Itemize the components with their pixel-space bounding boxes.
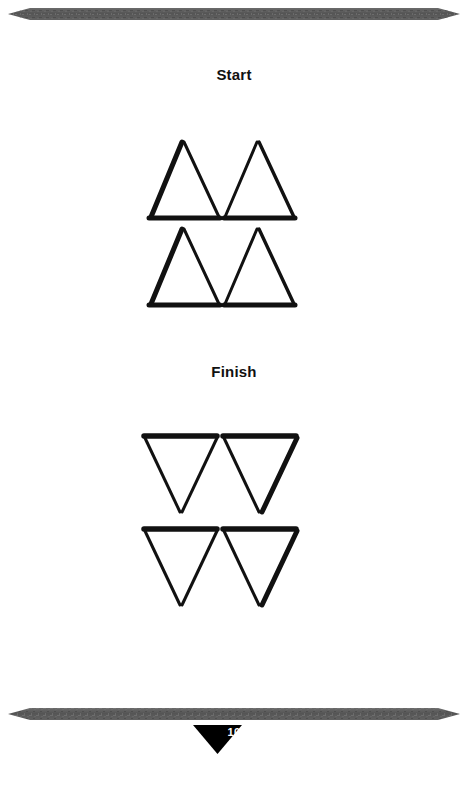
spear-rule-top-icon bbox=[8, 6, 460, 22]
page-number-triangle-icon bbox=[193, 725, 242, 754]
spear-rule-bottom-icon bbox=[8, 706, 460, 722]
start-figure bbox=[0, 132, 468, 312]
finish-figure bbox=[0, 426, 468, 611]
puzzle-page: Start bbox=[0, 0, 468, 785]
finish-section-label: Finish bbox=[0, 363, 468, 380]
start-section-label: Start bbox=[0, 66, 468, 83]
